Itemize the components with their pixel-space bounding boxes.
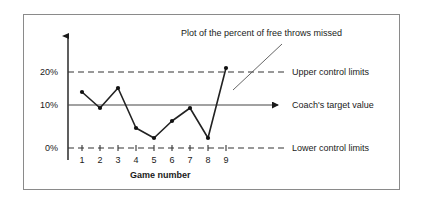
x-axis-title: Game number	[130, 170, 191, 180]
data-point-markers	[80, 66, 228, 140]
data-point	[188, 106, 192, 110]
y-tick-label-10: 10%	[30, 100, 58, 110]
x-tick-label-6: 6	[164, 155, 180, 165]
data-point	[152, 136, 156, 140]
chart-canvas: 20% 10% 0% 1 2 3 4 5 6 7 8 9 Game number…	[0, 0, 422, 212]
data-point	[80, 90, 84, 94]
x-tick-label-7: 7	[182, 155, 198, 165]
x-tick-label-8: 8	[200, 155, 216, 165]
coach-target-value-label: Coach's target value	[292, 100, 374, 110]
data-point	[224, 66, 228, 70]
x-tick-label-2: 2	[92, 155, 108, 165]
y-tick-label-0: 0%	[30, 143, 58, 153]
upper-control-limits-label: Upper control limits	[292, 67, 369, 77]
x-tick-label-5: 5	[146, 155, 162, 165]
data-series-line	[82, 68, 226, 138]
plot-callout-label: Plot of the percent of free throws misse…	[181, 28, 342, 38]
x-tick-label-9: 9	[218, 155, 234, 165]
x-tick-label-3: 3	[110, 155, 126, 165]
data-point	[170, 119, 174, 123]
lower-control-limits-label: Lower control limits	[292, 143, 369, 153]
y-tick-label-20: 20%	[30, 67, 58, 77]
x-tick-label-4: 4	[128, 155, 144, 165]
data-point	[134, 126, 138, 130]
x-tick-label-1: 1	[74, 155, 90, 165]
data-point	[116, 86, 120, 90]
data-point	[98, 106, 102, 110]
callout-leader-line	[233, 44, 282, 90]
data-point	[206, 136, 210, 140]
